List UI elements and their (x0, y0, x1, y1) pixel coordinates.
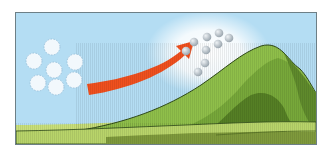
orographic-lift-diagram (15, 12, 317, 145)
diagram-canvas (16, 13, 316, 144)
